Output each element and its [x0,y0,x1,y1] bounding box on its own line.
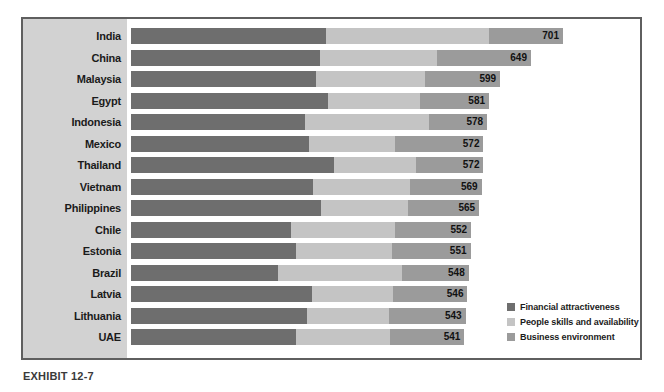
bar-segment-financial [131,329,296,345]
category-label: Malaysia [23,71,121,87]
bar-segment-people [291,222,395,238]
bar-value-label: 701 [542,28,559,44]
bar-segment-financial [131,243,296,259]
bar-value-label: 572 [463,157,480,173]
category-label: Brazil [23,265,121,281]
category-label: Indonesia [23,114,121,130]
bar-value-label: 572 [463,136,480,152]
bar-segment-financial [131,179,313,195]
legend-label: Financial attractiveness [520,302,620,312]
category-label: Thailand [23,157,121,173]
bar-value-label: 541 [444,329,461,345]
category-label: Lithuania [23,308,121,324]
bar-value-label: 581 [468,93,485,109]
legend-item: Business environment [507,330,639,343]
legend-swatch-financial [507,303,515,311]
bar-segment-financial [131,286,312,302]
bar-segment-financial [131,50,320,66]
bar-segment-people [313,179,410,195]
bar-segment-people [305,114,428,130]
legend-label: Business environment [520,332,615,342]
bar-segment-people [326,28,489,44]
category-label: Estonia [23,243,121,259]
bar-segment-financial [131,265,278,281]
bar-segment-people [312,286,393,302]
category-label: Chile [23,222,121,238]
stacked-bar: 599 [131,71,500,87]
stacked-bar: 578 [131,114,487,130]
bar-segment-people [321,200,407,216]
category-label: Mexico [23,136,121,152]
bar-segment-people [296,243,392,259]
bar-value-label: 599 [479,71,496,87]
bar-segment-people [296,329,390,345]
stacked-bar: 649 [131,50,531,66]
stacked-bar: 546 [131,286,467,302]
bar-segment-people [328,93,420,109]
stacked-bar: 572 [131,157,484,173]
bar-segment-financial [131,308,307,324]
stacked-bar: 543 [131,308,466,324]
bar-segment-financial [131,136,309,152]
legend-item: People skills and availability [507,315,639,328]
bar-segment-financial [131,200,321,216]
bar-value-label: 565 [459,200,476,216]
legend-label: People skills and availability [520,317,639,327]
stacked-bar: 548 [131,265,469,281]
bar-segment-people [334,157,416,173]
bar-value-label: 552 [450,222,467,238]
stacked-bar: 581 [131,93,489,109]
category-label: Egypt [23,93,121,109]
bar-segment-people [278,265,401,281]
bar-value-label: 548 [448,265,465,281]
stacked-bar: 565 [131,200,479,216]
category-label: Latvia [23,286,121,302]
category-label: China [23,50,121,66]
stacked-bar: 572 [131,136,484,152]
bar-segment-financial [131,71,316,87]
category-label: Vietnam [23,179,121,195]
bar-value-label: 649 [510,50,527,66]
bar-segment-financial [131,157,334,173]
bar-segment-people [320,50,436,66]
exhibit-caption: EXHIBIT 12-7 [23,370,94,382]
category-label: UAE [23,329,121,345]
stacked-bar: 552 [131,222,471,238]
stacked-bar: 541 [131,329,464,345]
bar-segment-financial [131,28,326,44]
legend-swatch-people [507,318,515,326]
bar-segment-people [307,308,390,324]
legend-item: Financial attractiveness [507,300,639,313]
legend-swatch-business [507,333,515,341]
category-label: Philippines [23,200,121,216]
bar-segment-people [316,71,425,87]
bar-value-label: 551 [450,243,467,259]
bar-value-label: 578 [467,114,484,130]
category-label: India [23,28,121,44]
stacked-bar: 701 [131,28,563,44]
chart-frame: India701China649Malaysia599Egypt581Indon… [21,17,642,360]
stacked-bar: 569 [131,179,482,195]
stacked-bar: 551 [131,243,471,259]
bar-value-label: 543 [445,308,462,324]
bar-segment-financial [131,93,328,109]
bar-segment-financial [131,222,291,238]
bar-segment-financial [131,114,305,130]
bar-value-label: 546 [447,286,464,302]
chart-legend: Financial attractivenessPeople skills an… [507,300,639,345]
bar-value-label: 569 [461,179,478,195]
bar-segment-people [309,136,395,152]
